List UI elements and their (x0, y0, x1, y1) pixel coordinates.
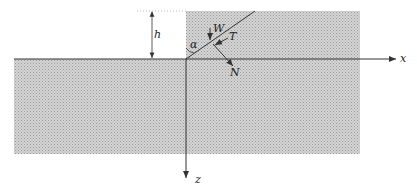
lower-soil-block (14, 59, 360, 154)
slope-diagram: x z h α W T N (0, 0, 417, 190)
z-axis-label: z (194, 173, 201, 186)
upper-soil-block (186, 11, 360, 59)
w-label: W (213, 22, 226, 35)
alpha-label: α (190, 38, 198, 51)
h-label: h (154, 28, 161, 41)
x-axis-label: x (400, 52, 407, 65)
n-label: N (229, 66, 240, 79)
